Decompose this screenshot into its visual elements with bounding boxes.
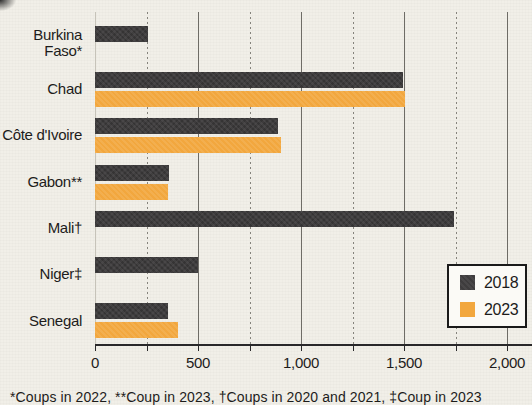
x-tick bbox=[301, 346, 302, 351]
x-tick-label: 500 bbox=[186, 354, 210, 371]
x-tick-label: 1,500 bbox=[386, 354, 422, 371]
category-label: Mali† bbox=[0, 205, 89, 251]
x-axis-line bbox=[95, 344, 532, 346]
x-tick-label: 0 bbox=[91, 354, 99, 371]
category-label: Chad bbox=[0, 66, 89, 112]
bar-row bbox=[95, 159, 531, 205]
x-tick bbox=[507, 346, 508, 351]
bar-row bbox=[95, 113, 531, 159]
legend-box: 20182023 bbox=[447, 264, 527, 328]
footnote: *Coups in 2022, **Coup in 2023, †Coups i… bbox=[10, 389, 482, 405]
category-label: Niger‡ bbox=[0, 251, 89, 297]
bar-2018 bbox=[95, 26, 148, 42]
bar-row bbox=[95, 20, 531, 66]
bar-2018 bbox=[95, 257, 198, 273]
bar-row bbox=[95, 205, 531, 251]
x-tick bbox=[456, 346, 457, 351]
legend-swatch bbox=[460, 302, 475, 317]
legend-swatch bbox=[460, 275, 475, 290]
x-tick bbox=[353, 346, 354, 351]
bar-2023 bbox=[95, 137, 281, 153]
bar-2018 bbox=[95, 165, 169, 181]
legend-label: 2018 bbox=[484, 274, 518, 292]
legend-item: 2023 bbox=[460, 301, 525, 319]
category-label: Gabon** bbox=[0, 159, 89, 205]
x-tick bbox=[147, 346, 148, 351]
bar-2023 bbox=[95, 184, 168, 200]
x-tick bbox=[404, 346, 405, 351]
legend-label: 2023 bbox=[484, 301, 518, 319]
category-label: Côte d'Ivoire bbox=[0, 113, 89, 159]
x-tick bbox=[95, 346, 96, 351]
bar-2023 bbox=[95, 91, 405, 107]
bar-2018 bbox=[95, 303, 168, 319]
category-label: Burkina Faso* bbox=[0, 20, 89, 66]
x-tick-label: 1,000 bbox=[283, 354, 319, 371]
x-tick-label: 2,000 bbox=[489, 354, 525, 371]
x-tick bbox=[198, 346, 199, 351]
bar-2018 bbox=[95, 118, 278, 134]
category-label: Senegal bbox=[0, 298, 89, 344]
bar-2023 bbox=[95, 322, 178, 338]
category-axis: Burkina Faso*ChadCôte d'IvoireGabon**Mal… bbox=[0, 20, 89, 344]
bar-2018 bbox=[95, 211, 454, 227]
bar-2018 bbox=[95, 72, 403, 88]
legend-item: 2018 bbox=[460, 274, 525, 292]
x-tick bbox=[250, 346, 251, 351]
bar-row bbox=[95, 66, 531, 112]
scan-smudge-artifact bbox=[0, 0, 16, 11]
